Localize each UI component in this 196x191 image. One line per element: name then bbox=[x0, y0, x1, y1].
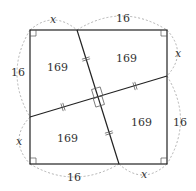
side-label-left-x: x bbox=[16, 135, 23, 148]
side-label-bottom-16: 16 bbox=[67, 171, 81, 184]
region-top-right-label: 169 bbox=[116, 52, 137, 65]
side-label-top-16: 16 bbox=[116, 12, 130, 25]
right-angle-icon bbox=[161, 30, 167, 36]
side-label-left-16: 16 bbox=[11, 66, 25, 79]
center-right-angle-marker bbox=[91, 87, 106, 107]
region-bottom-right-label: 169 bbox=[131, 116, 152, 129]
side-label-right-16: 16 bbox=[173, 116, 187, 129]
right-angle-icon bbox=[30, 158, 36, 164]
right-angle-icon bbox=[161, 158, 167, 164]
square-dissection-diagram: 169 169 169 169 x 16 x 16 x 16 x 16 bbox=[0, 0, 196, 191]
region-bottom-left-label: 169 bbox=[57, 132, 78, 145]
side-label-bottom-x: x bbox=[141, 168, 148, 181]
region-top-left-label: 169 bbox=[47, 61, 68, 74]
side-label-right-x: x bbox=[175, 47, 182, 60]
side-label-top-x: x bbox=[50, 13, 57, 26]
right-angle-icon bbox=[30, 30, 36, 36]
